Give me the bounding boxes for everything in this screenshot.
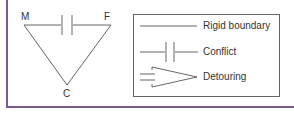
edge-m-c — [24, 25, 67, 85]
vertex-label-c: C — [63, 89, 70, 99]
edge-f-c — [67, 25, 111, 85]
vertex-label-f: F — [104, 12, 110, 22]
legend-detouring-symbol — [140, 67, 197, 87]
vertex-label-m: M — [21, 12, 29, 22]
legend-conflict-symbol — [140, 42, 198, 62]
legend-label-detouring: Detouring — [203, 72, 246, 82]
legend-label-rigid-boundary: Rigid boundary — [203, 21, 270, 31]
legend-label-conflict: Conflict — [203, 47, 236, 57]
triangle — [24, 15, 111, 85]
diagram-canvas — [0, 0, 294, 117]
